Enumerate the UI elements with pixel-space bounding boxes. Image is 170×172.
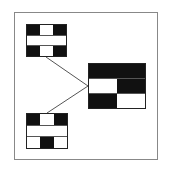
filled-cell [27, 46, 40, 56]
block-row [89, 93, 145, 108]
empty-cell [40, 114, 53, 125]
filled-cell [40, 137, 53, 148]
filled-cell [117, 79, 145, 93]
empty-cell [27, 36, 66, 46]
block-top-left [26, 24, 67, 57]
filled-cell [89, 64, 145, 78]
empty-cell [40, 46, 53, 56]
block-right [88, 63, 146, 109]
block-row [27, 35, 66, 46]
filled-cell [53, 25, 66, 35]
filled-cell [89, 94, 117, 108]
block-row [27, 25, 66, 35]
empty-cell [27, 126, 67, 137]
block-row [89, 64, 145, 78]
connector-top-left-to-right [46, 57, 88, 86]
filled-cell [54, 114, 67, 125]
filled-cell [27, 114, 40, 125]
block-bottom-left [26, 113, 68, 149]
block-row [27, 136, 67, 148]
filled-cell [53, 46, 66, 56]
block-row [27, 45, 66, 56]
empty-cell [27, 137, 40, 148]
empty-cell [40, 25, 53, 35]
connector-bottom-left-to-right [47, 86, 88, 113]
empty-cell [89, 79, 117, 93]
empty-cell [117, 94, 145, 108]
block-row [89, 78, 145, 93]
filled-cell [27, 25, 40, 35]
block-row [27, 125, 67, 137]
empty-cell [54, 137, 67, 148]
block-row [27, 114, 67, 125]
